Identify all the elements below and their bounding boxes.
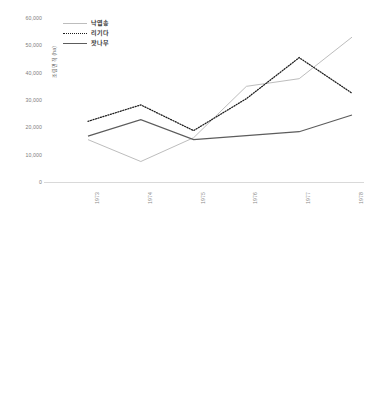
y-axis-tick-label: 40,000 <box>26 70 42 76</box>
chart-top: 60,00050,00040,00030,00020,00010,0000 조림… <box>0 0 369 207</box>
y-axis-tick-label: 20,000 <box>26 124 42 130</box>
x-axis-tick-label: 1973 <box>94 192 100 204</box>
series-line-낙엽송 <box>88 37 352 161</box>
x-axis-tick-label: 1978 <box>358 192 364 204</box>
y-axis-tick-label: 30,000 <box>26 97 42 103</box>
y-axis-tick-label: 10,000 <box>26 152 42 158</box>
x-axis-line-top <box>44 182 364 183</box>
x-axis-tick-label: 1974 <box>147 192 153 204</box>
series-line-잣나무 <box>88 115 352 140</box>
plot-area-top <box>44 18 364 182</box>
x-axis-tick-label: 1977 <box>305 192 311 204</box>
chart-page: 60,00050,00040,00030,00020,00010,0000 조림… <box>0 0 369 414</box>
y-axis-tick-label: 0 <box>39 179 42 185</box>
y-axis-tick-label: 60,000 <box>26 15 42 21</box>
y-axis-tick-label: 50,000 <box>26 42 42 48</box>
x-axis-tick-label: 1976 <box>252 192 258 204</box>
x-axis-tick-label: 1975 <box>200 192 206 204</box>
y-axis-ticks-top: 60,00050,00040,00030,00020,00010,0000 <box>0 0 42 207</box>
